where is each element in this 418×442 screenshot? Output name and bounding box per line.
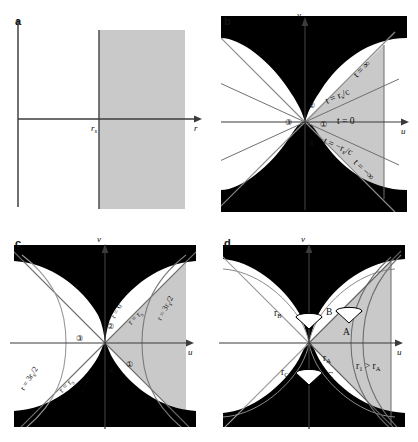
panel-d: d v u B A C rB rA rC r1 > rA [209, 221, 418, 442]
panel-c: c v u r = 0 r = rs r = 3rs/2 r = 3rs/2 r… [0, 221, 209, 442]
panel-b-label-t-zero: t = 0 [337, 116, 355, 126]
panel-a-label: a [15, 15, 22, 27]
panel-c-v-axis-label: v [97, 234, 101, 244]
panel-b-v-axis-label: v [297, 10, 301, 20]
panel-a: a rs r [0, 0, 209, 221]
panel-b-label: b [224, 15, 231, 27]
figure-root: a rs r [0, 0, 418, 442]
panel-b-quadrant-3: ③ [285, 118, 292, 127]
panel-c-quadrant-4: ④ [108, 366, 115, 375]
panel-a-plot: a rs r [0, 0, 209, 221]
panel-c-quadrant-2: ② [107, 322, 114, 331]
panel-c-quadrant-3: ③ [76, 334, 83, 343]
panel-d-v-axis-label: v [301, 234, 305, 244]
panel-d-label: d [224, 237, 231, 249]
panel-c-label: c [15, 237, 21, 249]
panel-c-quadrant-1: ① [126, 360, 133, 369]
panel-b-plot: b v u t = ∞ t = rs/c t = 0 t = −rs/c t =… [209, 0, 418, 221]
panel-b-quadrant-1: ① [320, 120, 327, 129]
panel-d-point-C-label: C [327, 371, 333, 381]
panel-d-point-B-label: B [326, 307, 332, 317]
panel-b-u-axis-label: u [401, 126, 406, 136]
panel-d-u-axis-label: u [397, 347, 402, 357]
panel-b-quadrant-4: ④ [308, 139, 315, 148]
panel-c-plot: c v u r = 0 r = rs r = 3rs/2 r = 3rs/2 r… [0, 221, 209, 442]
panel-d-point-A-label: A [343, 327, 350, 337]
panel-d-plot: d v u B A C rB rA rC r1 > rA [209, 221, 418, 442]
panel-a-x-axis-label: r [194, 123, 198, 133]
panel-b: b v u t = ∞ t = rs/c t = 0 t = −rs/c t =… [209, 0, 418, 221]
panel-b-quadrant-2: ② [308, 101, 315, 110]
panel-c-u-axis-label: u [188, 347, 193, 357]
